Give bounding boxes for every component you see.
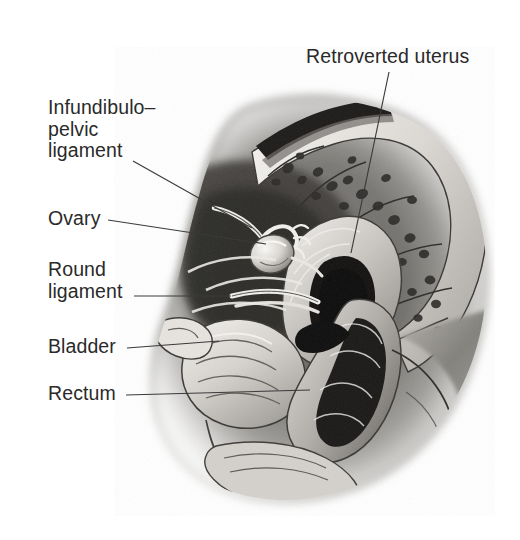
label-bladder: Bladder	[48, 336, 116, 358]
gluteal-fold	[420, 476, 429, 534]
label-retroverted-uterus: Retroverted uterus	[306, 46, 469, 68]
label-rectum: Rectum	[48, 383, 116, 405]
label-infundibulo-pelvic-ligament: Infundibulo– pelvic ligament	[48, 97, 155, 162]
anatomy-figure: Retroverted uterusInfundibulo– pelvic li…	[0, 0, 520, 540]
label-ovary: Ovary	[48, 208, 101, 230]
label-round-ligament: Round ligament	[48, 259, 123, 302]
